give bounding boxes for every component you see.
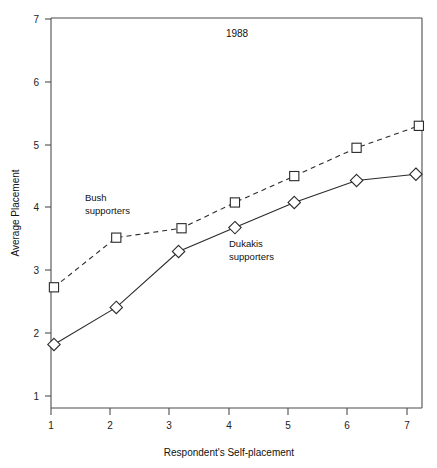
data-point-square (177, 224, 186, 233)
y-tick-label-3: 3 (33, 265, 39, 276)
x-tick-label-5: 5 (285, 420, 291, 431)
data-point-square (230, 198, 239, 207)
y-tick-label-5: 5 (33, 140, 39, 151)
y-tick-label-1: 1 (33, 391, 39, 402)
x-tick-label-7: 7 (404, 420, 410, 431)
x-tick-label-2: 2 (107, 420, 113, 431)
y-tick-label-7: 7 (33, 14, 39, 25)
annotation-bush-supporters: Bush supporters (85, 192, 130, 216)
bush-label-line1: Bush (85, 192, 107, 203)
annotation-dukakis-supporters: Dukakis supporters (229, 238, 274, 262)
line-chart: 7 6 5 4 3 2 1 1 2 3 4 5 6 7 (0, 0, 437, 468)
bush-label-line2: supporters (85, 205, 130, 216)
data-point-square (49, 283, 58, 292)
chart-figure: 7 6 5 4 3 2 1 1 2 3 4 5 6 7 (0, 0, 437, 468)
data-point-diamond (288, 196, 300, 208)
dukakis-label-line1: Dukakis (229, 238, 263, 249)
data-point-square (414, 121, 423, 130)
x-tick-label-3: 3 (166, 420, 172, 431)
x-axis-title: Respondent's Self-placement (164, 447, 295, 458)
data-point-diamond (350, 174, 362, 186)
y-axis-title: Average Placement (10, 169, 21, 256)
data-point-square (112, 233, 121, 242)
y-tick-label-2: 2 (33, 328, 39, 339)
y-tick-label-4: 4 (33, 202, 39, 213)
x-axis-ticks (51, 408, 407, 415)
data-point-diamond (410, 168, 422, 180)
y-axis-ticks (45, 19, 51, 396)
data-point-square (290, 171, 299, 180)
x-tick-label-1: 1 (48, 420, 54, 431)
x-tick-label-6: 6 (344, 420, 350, 431)
dukakis-label-line2: supporters (229, 251, 274, 262)
series-layer (48, 121, 424, 350)
y-axis-tick-labels: 7 6 5 4 3 2 1 (33, 14, 39, 402)
y-tick-label-6: 6 (33, 77, 39, 88)
data-point-diamond (229, 221, 241, 233)
chart-title: 1988 (226, 28, 249, 39)
x-axis-tick-labels: 1 2 3 4 5 6 7 (48, 420, 410, 431)
x-tick-label-4: 4 (226, 420, 232, 431)
data-point-diamond (48, 338, 60, 350)
data-point-square (352, 143, 361, 152)
